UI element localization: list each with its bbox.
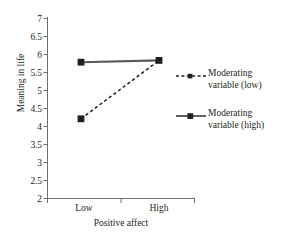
y-tick-label: 2.5 [30,176,42,186]
legend-item-high[interactable]: Moderating variable (high) [176,108,284,132]
legend-label-low-line1: Moderating [208,68,284,80]
data-point-low-low [78,115,85,122]
y-tick-label: 7 [37,14,42,24]
legend-item-low[interactable]: Moderating variable (low) [176,68,284,92]
x-tick-label-low: Low [54,203,114,213]
y-tick-label: 5 [37,86,42,96]
y-axis-ticks [44,19,48,199]
series-line-low [81,60,159,118]
y-tick-label: 3.5 [30,140,42,150]
y-tick-label: 4.5 [30,104,42,114]
x-tick-label-high: High [129,203,189,213]
y-tick-label: 6.5 [30,32,42,42]
y-tick-label: 5.5 [30,68,42,78]
legend-label-low-line2: variable (low) [208,80,284,92]
x-axis-title: Positive affect [47,218,195,228]
y-axis-title: Meaning in life [16,23,26,143]
solid-line-marker-icon [176,111,206,121]
data-point-high-high [156,57,163,64]
legend-label-high-line1: Moderating [208,108,284,120]
interaction-plot-figure: 7 6.5 6 5.5 5 4.5 4 3.5 3 2.5 2 Meaning … [0,0,284,244]
data-point-high-low [78,59,85,66]
series-line-high [81,60,159,62]
dashed-line-marker-icon [176,71,206,81]
y-tick-label: 6 [37,50,42,60]
legend-label-high-line2: variable (high) [208,120,284,132]
legend: Moderating variable (low) Moderating var… [176,68,284,148]
y-tick-label: 4 [37,122,42,132]
y-tick-label: 2 [37,194,42,204]
y-tick-label: 3 [37,158,42,168]
